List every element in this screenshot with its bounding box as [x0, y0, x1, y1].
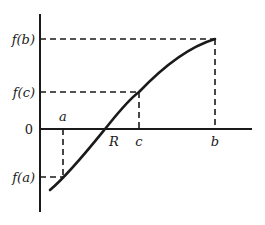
- label-fc: f(c): [12, 85, 35, 100]
- label-c: c: [135, 134, 143, 149]
- label-b: b: [211, 134, 219, 149]
- label-fb: f(b): [11, 32, 35, 47]
- label-zero: 0: [25, 122, 33, 137]
- label-a: a: [59, 109, 67, 124]
- label-R: R: [108, 134, 119, 149]
- function-diagram: f(b) f(c) 0 f(a) a R c b: [0, 0, 265, 225]
- function-curve: [50, 39, 215, 190]
- label-fa: f(a): [11, 170, 35, 185]
